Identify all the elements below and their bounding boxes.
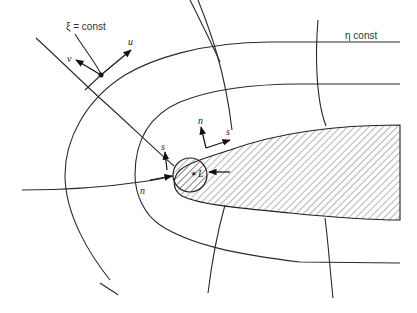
u-vector [101, 50, 131, 75]
u-label: u [128, 36, 133, 47]
top-s-vector [206, 140, 230, 148]
xi-const-curve [75, 34, 101, 74]
xi-line-3 [317, 20, 326, 126]
top-s-label: s [226, 126, 230, 137]
body-shape [174, 125, 400, 220]
normal-through-point [85, 75, 101, 90]
xi-line-6 [100, 283, 118, 295]
curvilinear-grid-diagram: ξ = const η const u v n s s n ✶ L [0, 0, 417, 313]
xi-line-1 [36, 38, 174, 166]
top-n-vector [201, 127, 206, 148]
L-marker: ✶ [190, 169, 198, 179]
left-n-label: n [140, 185, 145, 196]
eta-const-label: η const [345, 30, 377, 41]
top-n-label: n [198, 115, 203, 126]
v-label: v [67, 53, 72, 64]
L-label: L [197, 168, 204, 179]
left-s-vector [165, 152, 167, 170]
stagnation-line [22, 176, 173, 190]
xi-line-4 [325, 218, 333, 298]
xi-line-2 [198, 0, 232, 130]
xi-line-2b [190, 0, 220, 62]
left-n-vector [150, 176, 172, 180]
left-s-label: s [161, 141, 165, 152]
xi-const-label: ξ = const [66, 21, 106, 33]
